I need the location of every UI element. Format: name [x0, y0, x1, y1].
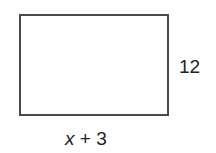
width-expression-rest: + 3	[75, 128, 107, 149]
height-label: 12	[179, 57, 200, 76]
width-label: x + 3	[65, 129, 107, 148]
rectangle-shape	[19, 14, 169, 116]
width-variable: x	[65, 128, 75, 149]
